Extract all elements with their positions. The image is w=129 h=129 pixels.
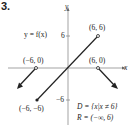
- closed-point-m6-m6: [35, 98, 38, 101]
- point-label-6-6: (6, 6): [89, 24, 105, 32]
- tick-label-6: 6: [61, 32, 65, 40]
- point-label-6-0: (6, 0): [89, 57, 105, 65]
- function-label: y = f(x): [24, 31, 47, 39]
- point-label-m6-0: (−6, 0): [23, 57, 43, 65]
- tick-label-m6: −6: [56, 96, 64, 104]
- domain-label: D = {x|x ≠ 6}: [77, 103, 118, 111]
- x-axis-label: x: [124, 64, 127, 72]
- open-point-6-0: [97, 67, 100, 70]
- range-label: R = (−∞, 6): [77, 114, 113, 122]
- branch-right: [99, 69, 114, 85]
- open-point-6-6: [97, 35, 100, 38]
- y-axis-label: y: [65, 3, 68, 11]
- point-label-m6-m6: (−6, −6): [19, 105, 44, 113]
- branch-left: [20, 69, 35, 85]
- open-point-m6-0: [35, 67, 38, 70]
